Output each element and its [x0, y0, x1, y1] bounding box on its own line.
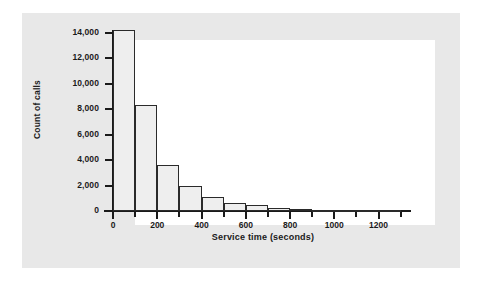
y-axis-title: Count of calls [32, 62, 46, 158]
x-axis-tick [289, 212, 291, 219]
y-axis-tick-label: 6,000 [77, 130, 99, 139]
x-axis-tick-label: 1000 [314, 220, 354, 230]
y-axis-tick [105, 134, 113, 136]
x-axis-minor-tick [311, 212, 313, 217]
y-axis-tick [105, 83, 113, 85]
x-axis-minor-tick [223, 212, 225, 217]
histogram-bar [290, 209, 312, 211]
histogram-bar [356, 210, 378, 212]
y-axis-tick-label: 0 [94, 206, 99, 215]
y-axis-tick-label: 4,000 [77, 155, 99, 164]
y-axis-tick [105, 185, 113, 187]
x-axis-tick-label: 400 [182, 220, 222, 230]
y-axis-tick-label: 8,000 [77, 104, 99, 113]
x-axis-minor-tick [134, 212, 136, 217]
histogram-bar [224, 203, 246, 211]
histogram-bar [246, 205, 268, 211]
x-axis-minor-tick [178, 212, 180, 217]
histogram-bar [157, 165, 179, 211]
x-axis-tick-label: 1200 [359, 220, 399, 230]
y-axis-tick-label: 10,000 [72, 79, 99, 88]
x-axis-minor-tick [400, 212, 402, 217]
y-axis-tick-label: 14,000 [72, 28, 99, 37]
histogram-bar [113, 30, 135, 211]
histogram-bar [268, 208, 290, 211]
x-axis-tick [245, 212, 247, 219]
x-axis-tick [333, 212, 335, 219]
y-axis-tick [105, 108, 113, 110]
y-axis-tick [105, 57, 113, 59]
histogram-bar [202, 197, 224, 211]
x-axis-minor-tick [355, 212, 357, 217]
histogram-bar [379, 210, 401, 212]
x-axis-tick [201, 212, 203, 219]
x-axis-minor-tick [267, 212, 269, 217]
histogram-bar [179, 186, 201, 211]
y-axis-tick [105, 159, 113, 161]
histogram-bar [312, 210, 334, 212]
y-axis-tick-label: 12,000 [72, 53, 99, 62]
x-axis-tick-label: 0 [93, 220, 133, 230]
x-axis-tick-label: 600 [226, 220, 266, 230]
x-axis-tick [112, 212, 114, 219]
histogram-bar [135, 105, 157, 211]
y-axis-tick-label: 2,000 [77, 181, 99, 190]
y-axis-tick [105, 32, 113, 34]
x-axis-tick [378, 212, 380, 219]
histogram-bar [334, 210, 356, 212]
figure-root: 02,0004,0006,0008,00010,00012,00014,000 … [0, 0, 481, 284]
x-axis-tick [156, 212, 158, 219]
x-axis-tick-label: 800 [270, 220, 310, 230]
x-axis-tick-label: 200 [137, 220, 177, 230]
x-axis-title: Service time (seconds) [113, 232, 413, 242]
